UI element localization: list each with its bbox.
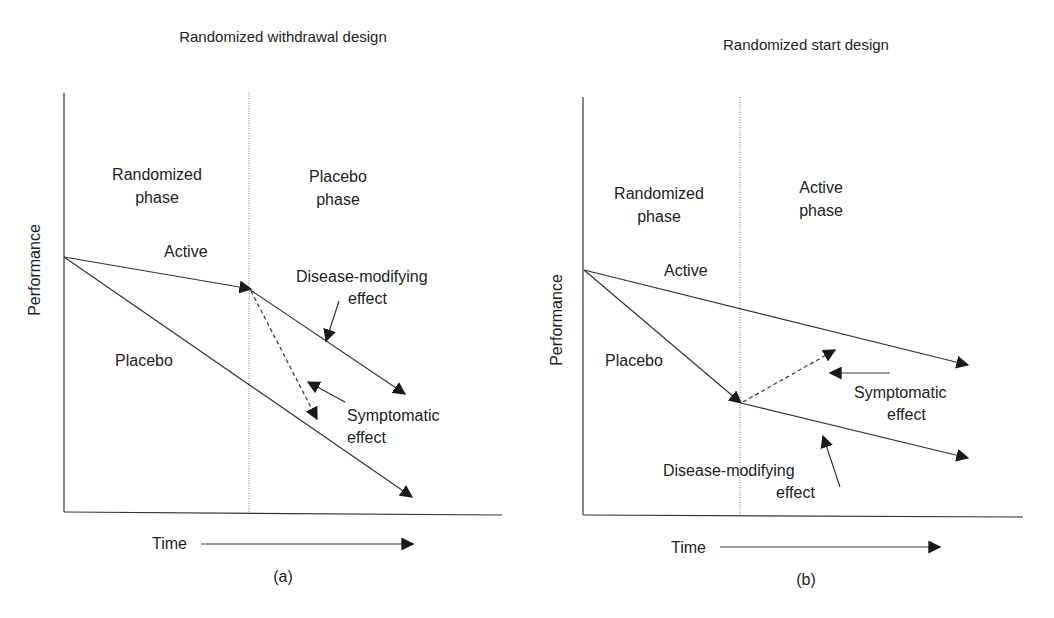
symptomatic-dashed-line [251, 291, 317, 419]
phase-left-label-line1: Randomized [112, 166, 202, 183]
disease-modifying-line [741, 403, 968, 458]
panel-a-caption: (a) [273, 568, 293, 585]
panel-a: Randomized withdrawal design Performance… [26, 28, 502, 585]
label-placebo: Placebo [115, 352, 173, 369]
x-axis-label: Time [671, 539, 706, 556]
panel-b-title: Randomized start design [723, 36, 889, 53]
x-axis-label: Time [152, 535, 187, 552]
phase-left-label-line2: phase [637, 208, 681, 225]
symptomatic-dashed-line [743, 350, 835, 402]
label-disease-modifying-line2: effect [348, 290, 387, 307]
panel-b: Randomized start design Performance Rand… [548, 36, 1023, 588]
phase-right-label-line1: Active [799, 179, 843, 196]
disease-modifying-pointer [326, 301, 339, 341]
label-disease-modifying-line1: Disease-modifying [663, 462, 795, 479]
label-placebo: Placebo [605, 352, 663, 369]
phase-right-label-line2: phase [316, 191, 360, 208]
label-symptomatic-line2: effect [887, 406, 926, 423]
y-axis-label: Performance [548, 274, 565, 366]
label-symptomatic-line1: Symptomatic [347, 407, 439, 424]
active-line [584, 270, 968, 365]
symptomatic-pointer [308, 382, 345, 402]
phase-left-label-line2: phase [135, 189, 179, 206]
label-active: Active [664, 262, 708, 279]
panel-b-caption: (b) [796, 571, 816, 588]
label-disease-modifying-line2: effect [776, 484, 815, 501]
phase-right-label-line2: phase [799, 202, 843, 219]
active-line [64, 257, 251, 289]
label-disease-modifying-line1: Disease-modifying [296, 268, 428, 285]
figure: Randomized withdrawal design Performance… [0, 0, 1054, 618]
phase-right-label-line1: Placebo [309, 168, 367, 185]
label-active: Active [164, 243, 208, 260]
phase-left-label-line1: Randomized [614, 185, 704, 202]
label-symptomatic-line1: Symptomatic [854, 384, 946, 401]
y-axis-label: Performance [26, 224, 43, 316]
disease-modifying-pointer [823, 436, 840, 487]
x-axis [64, 512, 502, 515]
panel-a-title: Randomized withdrawal design [179, 28, 387, 45]
label-symptomatic-line2: effect [347, 429, 386, 446]
x-axis [583, 515, 1023, 517]
